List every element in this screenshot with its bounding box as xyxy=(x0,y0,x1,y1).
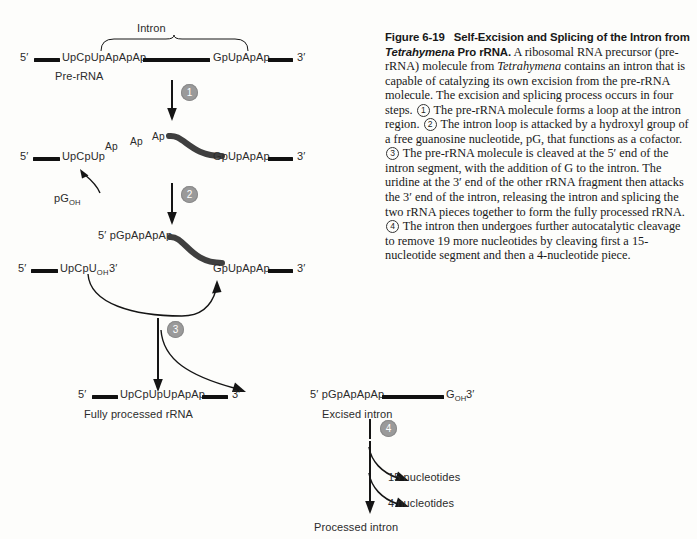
stage3-right-three-prime: 3′ xyxy=(297,262,305,274)
stage1-left-sequence: UpCpUpApApAp xyxy=(62,51,146,63)
step3-branch-arrow-icon xyxy=(160,330,260,396)
step2-arrow-icon xyxy=(166,183,180,227)
caption-step-4-marker: 4 xyxy=(386,220,399,233)
figure-title-species: Tetrahymena xyxy=(385,46,454,58)
stage4-rrna-three-prime: 3′ xyxy=(232,388,240,400)
cofactor-oh: OH xyxy=(69,198,81,207)
step-1-circle: 1 xyxy=(181,84,198,101)
stage4-intron-five-prime: 5′ pGpApApAp xyxy=(310,388,384,400)
intron-bracket-icon xyxy=(100,36,250,52)
step1-arrow-icon xyxy=(166,80,180,122)
caption-body-5: The pre-rRNA molecule is cleaved at the … xyxy=(385,146,685,218)
caption-step-1-marker: 1 xyxy=(417,104,430,117)
stage2-loop-residue-3: Ap xyxy=(152,131,165,142)
stage4-rrna-right-bar xyxy=(202,395,228,399)
stage3-left-five-prime: 5′ xyxy=(18,262,26,274)
step-2-circle: 2 xyxy=(181,186,198,203)
intron-bracket-label: Intron xyxy=(137,22,166,34)
stage3-left-bar xyxy=(31,269,58,273)
stage4-rrna-label: Fully processed rRNA xyxy=(84,408,193,420)
caption-step-3-marker: 3 xyxy=(386,147,399,160)
stage1-molecule-label: Pre-rRNA xyxy=(55,70,103,82)
cleavage-label-4: 4 nucleotides xyxy=(388,497,454,509)
stage4-intron-three-prime: 3′ xyxy=(466,388,474,400)
stage1-right-sequence: GpUpApAp xyxy=(213,51,270,63)
stage2-five-prime: 5′ xyxy=(20,150,28,162)
stage3-left-three-prime: 3′ xyxy=(109,262,117,274)
stage2-right-sequence: GpUpApAp xyxy=(213,150,270,162)
stage4-rrna-left-bar xyxy=(92,395,118,399)
stage4-intron-bar xyxy=(382,395,444,399)
cofactor-attack-arrow-icon xyxy=(76,163,112,195)
step4-stem-icon xyxy=(364,419,378,441)
stage1-right-bar xyxy=(268,58,293,62)
caption-species-italic: Tetrahymena xyxy=(497,59,561,73)
stage4-intron-end: G xyxy=(446,388,455,400)
stage1-three-prime: 3′ xyxy=(297,51,305,63)
caption-body-6: The intron then undergoes further autoca… xyxy=(385,219,681,262)
stage2-loop-residue-1: Ap xyxy=(105,141,118,152)
caption-step-2-marker: 2 xyxy=(424,118,437,131)
stage4-intron-end-oh: OH xyxy=(455,394,467,403)
stage2-loop-residue-2: Ap xyxy=(130,136,143,147)
stage2-left-bar xyxy=(33,157,60,161)
step-4-circle: 4 xyxy=(380,420,397,437)
stage4-intron-end-group: GOH xyxy=(446,388,466,403)
figure-number: Figure 6-19 xyxy=(385,31,445,43)
stage1-intron-bar xyxy=(143,58,210,62)
stage4-rrna-five-prime: 5′ xyxy=(78,388,86,400)
stage3-attack-arrow-icon xyxy=(86,274,220,320)
cofactor-pg: pG xyxy=(54,192,69,204)
stage1-left-bar xyxy=(34,58,60,62)
stage5-final-label: Processed intron xyxy=(314,521,398,533)
stage3-right-bar xyxy=(268,269,293,273)
stage4-intron-label: Excised intron xyxy=(322,408,393,420)
stage2-three-prime: 3′ xyxy=(297,150,305,162)
stage3-intron-five-prime: 5′ pGpApApAp xyxy=(98,229,172,241)
figure-caption: Figure 6-19Self-Excision and Splicing of… xyxy=(385,30,691,263)
stage4-rrna-sequence: UpCpUpUpApAp xyxy=(120,388,205,400)
stage3-right-sequence: GpUpApAp xyxy=(213,262,270,274)
stage1-five-prime: 5′ xyxy=(20,51,28,63)
stage2-right-bar xyxy=(268,157,293,161)
stage2-left-sequence: UpCpUp xyxy=(62,150,105,162)
stage3-left-sequence: UpCpU xyxy=(60,262,97,274)
